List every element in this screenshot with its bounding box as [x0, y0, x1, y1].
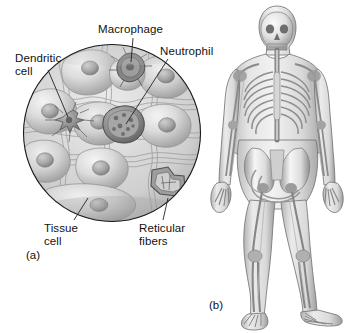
panel-label-a: (a) — [26, 249, 40, 261]
label-neutrophil: Neutrophil — [160, 45, 213, 58]
skeleton-internal-structures — [215, 12, 339, 327]
cell-nucleus — [93, 161, 110, 175]
sternum — [274, 72, 280, 120]
elbow-left — [228, 121, 238, 130]
shoulder-joint-left — [233, 70, 247, 82]
label-dendritic-cell: Dendritic cell — [15, 52, 61, 77]
cell-nucleus — [37, 153, 54, 167]
panel-label-b: (b) — [209, 299, 223, 311]
neutrophil-cell — [103, 106, 144, 143]
shoulder-joint-right — [307, 70, 321, 82]
cell-nucleus — [42, 104, 59, 118]
elbow-right — [316, 121, 326, 130]
label-reticular-fibers: Reticular fibers — [139, 222, 185, 247]
label-macrophage: Macrophage — [98, 23, 163, 36]
cell-nucleus — [159, 118, 176, 132]
label-tissue-cell: Tissue cell — [44, 222, 78, 247]
panel-b-human-body — [211, 6, 343, 330]
